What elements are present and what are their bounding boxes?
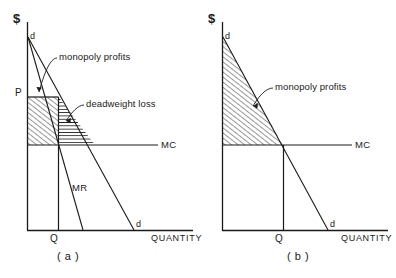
panel-a-demand-top-label: d: [30, 32, 35, 41]
panel-a-demand-bottom-label: d: [136, 220, 141, 229]
panel-b-graph: [216, 22, 388, 231]
panel-a-x-axis-label: QUANTITY: [151, 234, 202, 243]
panel-b-monopoly-profits-label: monopoly profits: [275, 82, 346, 92]
panel-b-demand-bottom-label: d: [330, 220, 335, 229]
panel-b-y-axis-label: $: [208, 12, 215, 25]
panel-b-demand-top-label: d: [225, 32, 230, 41]
panel-a-deadweight-loss-label: deadweight loss: [86, 99, 156, 109]
panel-a-y-axis-label: $: [13, 12, 20, 25]
panel-b-caption: ( b ): [287, 251, 309, 262]
panel-a-mr-label: MR: [72, 183, 88, 193]
panel-b-x-axis-label: QUANTITY: [341, 234, 392, 243]
panel-a-quantity-label: Q: [50, 234, 58, 244]
panel-a-monopoly-profits-arrowhead: [36, 87, 41, 92]
panel-b-mc-label: MC: [355, 140, 371, 150]
economics-figure: $ d P monopoly profits deadweight loss M…: [0, 0, 396, 278]
panel-a-mc-label: MC: [161, 140, 177, 150]
panel-a-monopoly-profits-label: monopoly profits: [59, 52, 130, 62]
panel-b-quantity-label: Q: [275, 234, 283, 244]
panel-a-caption: ( a ): [57, 251, 79, 262]
panel-a-price-label: P: [15, 88, 22, 98]
